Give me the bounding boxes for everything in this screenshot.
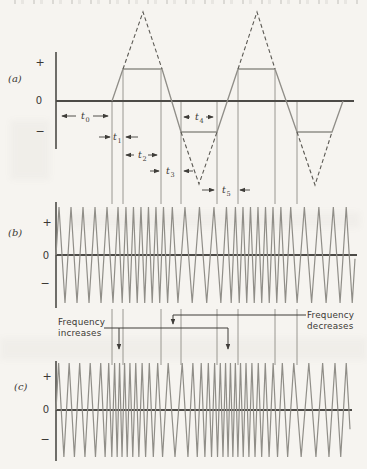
time-label-t5-subscript: 5 (227, 190, 231, 198)
dashed-triangle-extension (238, 12, 275, 69)
time-label-t1: t (113, 131, 117, 142)
fm-waveform-figure: t0t1t2t3t4t5 (a) (b) (c) + 0 − + 0 − + 0… (0, 0, 367, 469)
panel-b-minus-label: − (40, 277, 49, 290)
frequency-decreases-label-line2: decreases (307, 321, 354, 331)
figure-page: t0t1t2t3t4t5 (a) (b) (c) + 0 − + 0 − + 0… (0, 0, 367, 469)
time-label-t3-subscript: 3 (171, 171, 175, 179)
frequency-increases-label-line2: increases (58, 328, 102, 338)
time-label-t0: t (81, 110, 85, 121)
time-label-t1-subscript: 1 (118, 137, 122, 145)
panel-a-label: (a) (8, 73, 22, 84)
panel-b-label: (b) (8, 227, 22, 238)
time-label-t2-subscript: 2 (143, 155, 147, 163)
frequency-decreases-label-line1: Frequency (307, 310, 354, 320)
time-label-t2: t (138, 149, 142, 160)
panel-c-label: (c) (14, 381, 28, 392)
frequency-increases-label-line1: Frequency (58, 317, 105, 327)
time-label-t0-subscript: 0 (86, 116, 90, 124)
dashed-triangle-extension (181, 132, 217, 184)
waveform-render-layer: t0t1t2t3t4t5 (56, 12, 357, 461)
frequency-decreases-arrow (173, 315, 306, 324)
dashed-triangle-extension (123, 12, 162, 69)
dashed-triangle-extension (297, 132, 332, 185)
panel-c-zero-label: 0 (43, 404, 49, 415)
panel-c-plus-label: + (42, 370, 51, 383)
time-label-t4-subscript: 4 (200, 117, 204, 125)
time-label-t5: t (222, 184, 226, 195)
panel-a-minus-label: − (35, 125, 44, 138)
panel-a-zero-label: 0 (36, 95, 42, 106)
panel-a-plus-label: + (35, 56, 44, 69)
panel-b-plus-label: + (42, 216, 51, 229)
time-label-t4: t (195, 111, 199, 122)
panel-c-minus-label: − (40, 433, 49, 446)
time-label-t3: t (166, 165, 170, 176)
panel-b-zero-label: 0 (43, 250, 49, 261)
